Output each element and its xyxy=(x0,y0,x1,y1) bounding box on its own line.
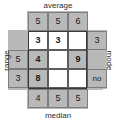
label-average: average xyxy=(0,1,116,10)
inner-cell-1-0: 4 xyxy=(28,50,48,69)
left-cell-0 xyxy=(8,31,28,50)
top-cell-1: 5 xyxy=(48,12,68,31)
left-cell-2: 3 xyxy=(8,69,28,88)
inner-cell-1-2: 9 xyxy=(68,50,88,69)
left-cell-1: 5 xyxy=(8,50,28,69)
label-median: median xyxy=(0,111,116,120)
bottom-cell-0: 4 xyxy=(28,89,48,108)
puzzle-diagram: 5 5 6 4 5 5 5 3 3 no 3 3 4 9 8 average m… xyxy=(0,0,116,125)
top-cell-0: 5 xyxy=(28,12,48,31)
inner-cell-2-2 xyxy=(68,69,88,88)
bottom-cell-1: 5 xyxy=(48,89,68,108)
inner-cell-2-1 xyxy=(48,69,68,88)
label-mode: mode xyxy=(105,41,114,81)
bottom-cell-2: 5 xyxy=(68,89,88,108)
inner-cell-2-0: 8 xyxy=(28,69,48,88)
inner-cell-0-1: 3 xyxy=(48,31,68,50)
label-range: range xyxy=(2,41,11,81)
top-cell-2: 6 xyxy=(68,12,88,31)
inner-cell-1-1 xyxy=(48,50,68,69)
inner-cell-0-2 xyxy=(68,31,88,50)
inner-cell-0-0: 3 xyxy=(28,31,48,50)
